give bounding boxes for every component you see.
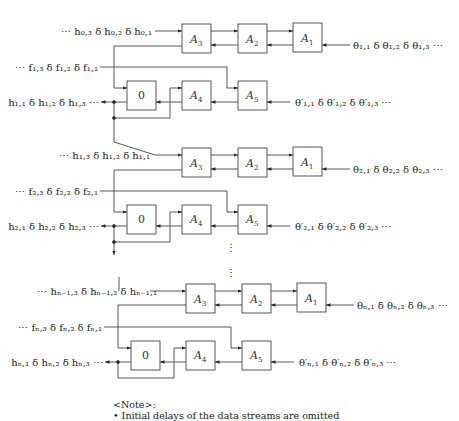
note-bullet: • Initial delays of the data streams are… bbox=[113, 410, 339, 421]
theta-input-row-1: θ₁,₁ δ θ₁,₂ δ θ₁,₃ ⋯ bbox=[353, 40, 443, 51]
h-input-row-1: ⋯ h₀,₃ δ h₀,₂ δ h₀,₁ bbox=[61, 26, 152, 37]
note-title: <Note>: bbox=[113, 399, 156, 410]
theta-prime-input-row-2: θ′₂,₁ δ θ′₂,₂ δ θ′₂,₃ ⋯ bbox=[295, 221, 391, 232]
f-input-row-n: ⋯ fₙ,₃ δ fₙ,₂ δ fₙ,₁ bbox=[18, 322, 102, 333]
f-input-row-1: ⋯ f₁,₃ δ f₁,₂ δ f₁,₁ bbox=[15, 62, 98, 73]
box-labels: A3 A2 A1 0 A4 A5 A3 A2 A1 0 A4 A5 A3 A2 … bbox=[138, 32, 317, 364]
h-output-row-1: h₁,₁ δ h₁,₂ δ h₁,₃ ⋯ bbox=[8, 97, 99, 108]
vertical-ellipsis: ⋮ bbox=[226, 242, 236, 253]
h-output-row-n: hₙ,₁ δ hₙ,₂ δ hₙ,₃ ⋯ bbox=[11, 357, 103, 368]
svg-text:0: 0 bbox=[138, 89, 145, 102]
svg-text:0: 0 bbox=[138, 213, 145, 226]
theta-input-row-n: θₙ,₁ δ θₙ,₂ δ θₙ,₃ ⋯ bbox=[357, 300, 448, 311]
theta-prime-input-row-n: θ′ₙ,₁ δ θ′ₙ,₂ δ θ′ₙ,₃ ⋯ bbox=[299, 357, 396, 368]
f-input-row-2: ⋯ f₂,₃ δ f₂,₂ δ f₂,₁ bbox=[15, 186, 98, 197]
svg-text:0: 0 bbox=[142, 349, 149, 362]
stream-labels: ⋯ h₀,₃ δ h₀,₂ δ h₀,₁ ⋯ f₁,₃ δ f₁,₂ δ f₁,… bbox=[8, 26, 447, 368]
systolic-diagram: A3 A2 A1 0 A4 A5 A3 A2 A1 0 A4 A5 A3 A2 … bbox=[0, 0, 459, 421]
theta-input-row-2: θ₂,₁ δ θ₂,₂ δ θ₂,₃ ⋯ bbox=[353, 164, 443, 175]
h-input-row-n: ⋯ hₙ₋₁,₃ δ hₙ₋₁,₂ δ hₙ₋₁,₁ bbox=[37, 286, 157, 297]
h-output-row-2: h₂,₁ δ h₂,₂ δ h₂,₃ ⋯ bbox=[8, 221, 99, 232]
theta-prime-input-row-1: θ′₁,₁ δ θ′₁,₂ δ θ′₁,₃ ⋯ bbox=[295, 97, 391, 108]
h-input-row-2: ⋯ h₁,₃ δ h₁,₂ δ h₁,₁ bbox=[59, 150, 150, 161]
vertical-ellipsis: ⋮ bbox=[226, 267, 236, 278]
